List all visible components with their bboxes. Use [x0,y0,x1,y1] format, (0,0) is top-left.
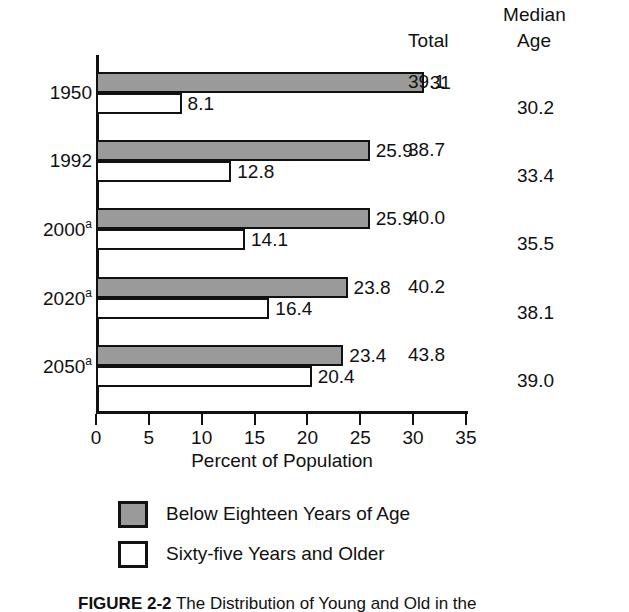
x-tick-5 [148,414,150,425]
caption-text: The Distribution of Young and Old in the [176,594,477,612]
category-label-2020: 2020a [43,286,92,309]
median-age-value-1950: 30.2 [517,97,554,119]
figure-number: FIGURE 2-2 [78,594,172,612]
legend-item-below: Below Eighteen Years of Age [118,497,410,531]
bar-value-2020-below: 23.8 [354,277,391,299]
x-tick-20 [306,414,308,425]
x-tick-label-25: 25 [350,427,371,449]
legend-label-older: Sixty-five Years and Older [166,543,385,565]
category-label-2050: 2050a [43,354,92,377]
median-age-value-2050: 39.0 [517,370,554,392]
legend-swatch-below [118,501,148,528]
category-label-2000: 2000a [43,217,92,240]
legend-label-below: Below Eighteen Years of Age [166,503,410,525]
legend-item-older: Sixty-five Years and Older [118,537,410,571]
x-tick-15 [254,414,256,425]
x-tick-label-35: 35 [455,427,476,449]
bar-1950-below [96,72,424,93]
x-tick-label-30: 30 [403,427,424,449]
x-axis-title: Percent of Population [96,450,468,472]
total-value-1992: 38.7 [408,139,445,161]
median-age-value-2020: 38.1 [517,302,554,324]
total-value-2020: 40.2 [408,276,445,298]
bar-value-2050-sixty-five: 20.4 [318,366,355,388]
x-tick-label-15: 15 [244,427,265,449]
legend-swatch-older [118,541,148,568]
category-label-1950: 1950 [50,82,92,104]
category-label-1992: 1992 [50,150,92,172]
median-age-value-2000: 35.5 [517,233,554,255]
x-tick-10 [201,414,203,425]
total-value-2000: 40.0 [408,207,445,229]
bar-value-2020-sixty-five: 16.4 [275,298,312,320]
figure-bar-chart: Median Total Age 05101520253035 318.125.… [0,0,629,612]
x-tick-25 [359,414,361,425]
x-tick-label-10: 10 [191,427,212,449]
bar-2050-sixty-five [96,366,312,387]
bar-value-1950-sixty-five: 8.1 [188,93,214,115]
bar-2020-below [96,277,348,298]
bar-2050-below [96,345,343,366]
total-value-2050: 43.8 [408,344,445,366]
median-age-value-1992: 33.4 [517,165,554,187]
bar-1992-below [96,140,370,161]
legend: Below Eighteen Years of AgeSixty-five Ye… [118,497,410,577]
bar-value-2000-sixty-five: 14.1 [251,229,288,251]
x-tick-label-0: 0 [91,427,102,449]
bar-1950-sixty-five [96,93,182,114]
x-tick-35 [465,414,467,425]
bar-2000-below [96,208,370,229]
x-tick-label-5: 5 [144,427,155,449]
x-tick-0 [95,414,97,425]
bar-value-1992-sixty-five: 12.8 [237,161,274,183]
bar-2020-sixty-five [96,298,269,319]
bar-2000-sixty-five [96,229,245,250]
bar-value-2050-below: 23.4 [349,345,386,367]
figure-caption: FIGURE 2-2 The Distribution of Young and… [78,594,629,612]
plot-area: 05101520253035 318.125.912.825.914.123.8… [0,0,629,470]
bar-1992-sixty-five [96,161,231,182]
x-tick-30 [412,414,414,425]
x-tick-label-20: 20 [297,427,318,449]
total-value-1950: 39.1 [408,71,445,93]
